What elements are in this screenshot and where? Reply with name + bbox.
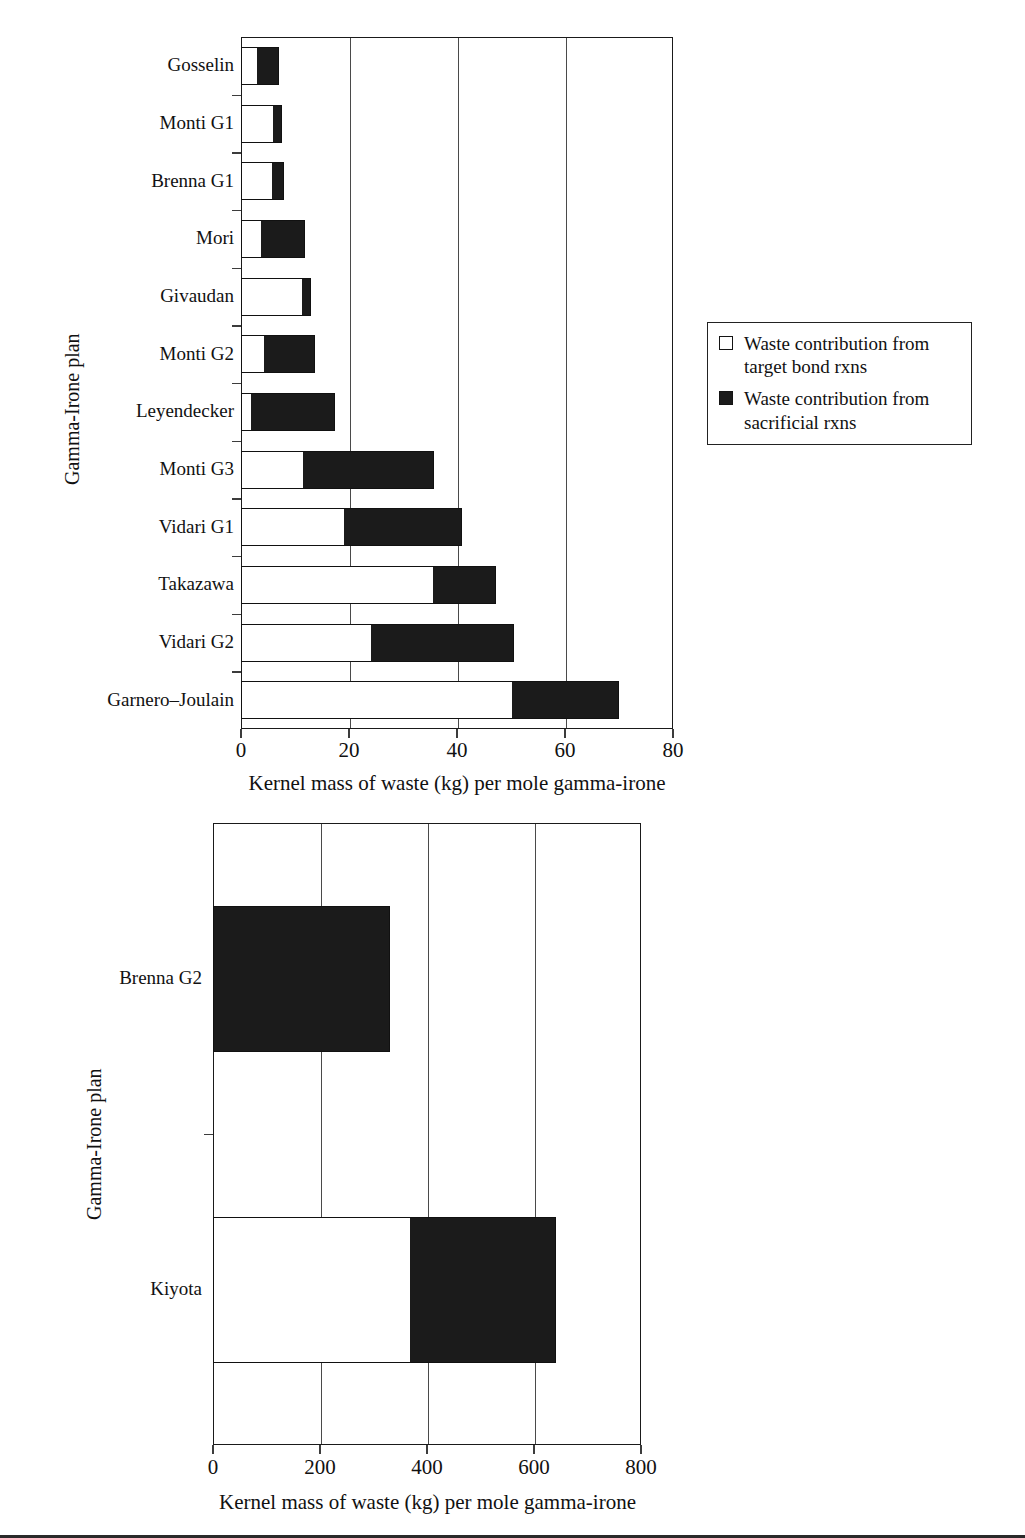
bar-gosselin (241, 47, 279, 85)
chart2-x-axis-title: Kernel mass of waste (kg) per mole gamma… (200, 1492, 655, 1513)
category-label: Gosselin (168, 55, 235, 74)
bar-segment-sacrificial (303, 451, 434, 489)
chart2-y-axis-title: Gamma-Irone plan (84, 1068, 104, 1220)
y-tick-mark (232, 556, 241, 557)
bar-segment-target-bond (241, 47, 257, 85)
bar-segment-sacrificial (512, 681, 619, 719)
chart1-legend: Waste contribution from target bond rxns… (707, 322, 972, 445)
category-label: Monti G2 (160, 344, 234, 363)
bar-leyendecker (241, 393, 335, 431)
x-tick-mark (533, 1445, 534, 1454)
bar-monti-g1 (241, 105, 282, 143)
bar-segment-sacrificial (302, 278, 311, 316)
category-label: Kiyota (150, 1279, 202, 1298)
bar-segment-sacrificial (433, 566, 496, 604)
bar-segment-sacrificial (273, 105, 282, 143)
chart1-x-axis-title: Kernel mass of waste (kg) per mole gamma… (241, 773, 673, 794)
bar-mori (241, 220, 305, 258)
category-label: Brenna G1 (151, 171, 234, 190)
category-label: Monti G3 (160, 459, 234, 478)
bar-segment-target-bond (241, 681, 512, 719)
hollow-square-icon (719, 336, 733, 350)
legend-label-target-bond: Waste contribution from target bond rxns (744, 332, 959, 378)
y-tick-mark (232, 383, 241, 384)
x-tick-mark (240, 729, 241, 738)
y-tick-mark (232, 498, 241, 499)
x-tick-mark (348, 729, 349, 738)
lower-bar-chart: Gamma-Irone plan Brenna G2Kiyota 0200400… (0, 800, 1025, 1538)
category-label: Garnero–Joulain (107, 690, 234, 709)
category-label: Brenna G2 (119, 968, 202, 987)
bar-segment-target-bond (241, 624, 371, 662)
bar-segment-sacrificial (264, 335, 315, 373)
legend-entry-target-bond: Waste contribution from target bond rxns (719, 332, 959, 378)
bar-segment-target-bond (213, 1217, 410, 1363)
category-label: Takazawa (158, 574, 234, 593)
x-tick-label: 600 (518, 1457, 550, 1478)
bar-segment-target-bond (241, 566, 433, 604)
x-tick-mark (564, 729, 565, 738)
bar-segment-target-bond (241, 393, 251, 431)
bar-takazawa (241, 566, 496, 604)
chart1-y-axis-title: Gamma-Irone plan (62, 333, 82, 485)
y-tick-mark (232, 441, 241, 442)
bar-brenna-g1 (241, 162, 284, 200)
category-label: Givaudan (160, 286, 234, 305)
category-label: Vidari G1 (159, 517, 234, 536)
x-tick-label: 20 (339, 740, 360, 761)
bar-segment-target-bond (241, 220, 261, 258)
bar-brenna-g2 (213, 906, 390, 1052)
legend-label-sacrificial: Waste contribution from sacrificial rxns (744, 387, 959, 433)
bar-vidari-g1 (241, 508, 462, 546)
y-tick-mark (232, 268, 241, 269)
x-tick-mark (426, 1445, 427, 1454)
x-tick-mark (212, 1445, 213, 1454)
x-tick-label: 800 (625, 1457, 657, 1478)
x-tick-label: 40 (447, 740, 468, 761)
legend-entry-sacrificial: Waste contribution from sacrificial rxns (719, 387, 959, 433)
y-tick-mark (232, 95, 241, 96)
bar-segment-target-bond (241, 451, 303, 489)
category-label: Vidari G2 (159, 632, 234, 651)
bar-kiyota (213, 1217, 556, 1363)
y-tick-mark (232, 671, 241, 672)
category-label: Mori (196, 228, 234, 247)
upper-bar-chart: Gamma-Irone plan GosselinMonti G1Brenna … (0, 0, 1025, 800)
bar-segment-sacrificial (213, 906, 390, 1052)
y-tick-mark (232, 210, 241, 211)
bar-segment-target-bond (241, 105, 273, 143)
x-tick-label: 0 (208, 1457, 219, 1478)
bar-monti-g3 (241, 451, 434, 489)
bar-monti-g2 (241, 335, 315, 373)
bar-givaudan (241, 278, 311, 316)
bar-garnero-joulain (241, 681, 619, 719)
gridline (566, 38, 567, 728)
x-tick-mark (640, 1445, 641, 1454)
bar-segment-sacrificial (251, 393, 336, 431)
bar-segment-sacrificial (344, 508, 462, 546)
x-tick-label: 200 (304, 1457, 336, 1478)
category-label: Monti G1 (160, 113, 234, 132)
bar-segment-target-bond (241, 278, 302, 316)
bar-segment-sacrificial (371, 624, 514, 662)
bar-segment-sacrificial (272, 162, 284, 200)
x-tick-mark (672, 729, 673, 738)
y-tick-mark (204, 1134, 213, 1135)
y-tick-mark (232, 614, 241, 615)
filled-square-icon (719, 391, 733, 405)
y-tick-mark (232, 325, 241, 326)
x-tick-label: 60 (555, 740, 576, 761)
bar-vidari-g2 (241, 624, 514, 662)
x-tick-mark (319, 1445, 320, 1454)
bar-segment-target-bond (241, 335, 264, 373)
x-tick-label: 80 (663, 740, 684, 761)
y-tick-mark (232, 152, 241, 153)
bar-segment-target-bond (241, 508, 344, 546)
x-tick-label: 400 (411, 1457, 443, 1478)
bar-segment-sacrificial (261, 220, 305, 258)
x-tick-label: 0 (236, 740, 247, 761)
x-tick-mark (456, 729, 457, 738)
bar-segment-sacrificial (257, 47, 279, 85)
bar-segment-sacrificial (410, 1217, 557, 1363)
bar-segment-target-bond (241, 162, 272, 200)
